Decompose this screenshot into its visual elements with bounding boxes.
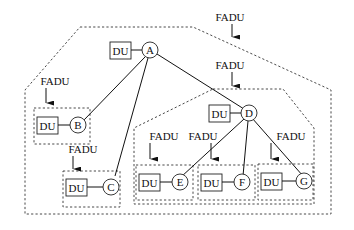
svg-text:G: G [300,175,308,187]
svg-text:FADU: FADU [68,143,97,155]
node-e: DU E [139,174,188,191]
edge-a-b [84,57,145,120]
fadu-label-b: FADU [40,75,69,103]
svg-text:B: B [74,119,81,131]
svg-text:FADU: FADU [276,130,305,142]
edge-d-g [252,118,303,176]
svg-text:DU: DU [142,177,158,189]
svg-text:FADU: FADU [149,130,178,142]
svg-text:FADU: FADU [215,11,244,23]
fadu-label-outer: FADU [215,11,244,37]
edge-d-f [243,121,248,176]
node-c: DU C [66,179,119,196]
node-b: DU B [37,117,86,134]
svg-text:A: A [146,44,154,56]
node-d: DU D [209,105,257,122]
edge-d-e [181,119,244,177]
tree-edges [84,54,303,177]
fadu-label-g: FADU [271,130,306,159]
fadu-label-d: FADU [215,59,244,86]
node-g: DU G [261,173,312,190]
svg-text:DU: DU [212,108,228,120]
svg-text:DU: DU [204,177,220,189]
svg-text:DU: DU [264,176,280,188]
fadu-label-c: FADU [68,143,97,169]
fadu-label-e: FADU [149,130,178,159]
svg-text:FADU: FADU [215,59,244,71]
fadu-label-f: FADU [188,130,217,159]
node-a: DU A [110,42,158,59]
svg-text:FADU: FADU [188,130,217,142]
svg-text:F: F [239,176,245,188]
svg-text:C: C [107,181,114,193]
svg-text:FADU: FADU [40,75,69,87]
svg-text:D: D [245,107,253,119]
svg-text:DU: DU [69,182,85,194]
fadu-tree-diagram: FADU FADU FADU FADU FADU FADU FADU DU A … [0,0,354,230]
svg-text:DU: DU [113,45,129,57]
edge-a-c [115,58,148,176]
svg-text:DU: DU [40,120,56,132]
node-f: DU F [201,174,250,191]
svg-text:E: E [177,176,184,188]
